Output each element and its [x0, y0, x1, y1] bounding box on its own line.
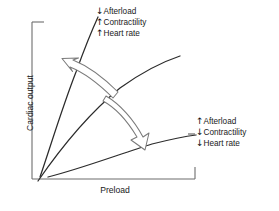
arrow-down-icon: ↓ [96, 6, 101, 16]
lower-annotation-row: ↓ Contractility [196, 127, 246, 138]
upper-annotation-row: ↑ Contractility [96, 17, 146, 28]
shift-up-arrow-body [62, 58, 118, 98]
upper-annotation-label: Contractility [104, 18, 147, 28]
upper-annotation-label: Heart rate [104, 29, 140, 39]
lower-annotation-row: ↑ Afterload [196, 116, 246, 127]
arrow-down-icon: ↓ [196, 138, 201, 148]
curve-depressed-cardiac-function [48, 135, 196, 177]
shift-up-arrow [62, 58, 118, 98]
arrow-up-icon: ↑ [196, 116, 201, 126]
y-axis-title: Cardiac output [25, 53, 35, 153]
upper-annotation-row: ↑ Heart rate [96, 28, 146, 39]
upper-annotation-label: Afterload [104, 7, 137, 17]
lower-annotation-label: Afterload [204, 117, 237, 127]
lower-annotation-label: Heart rate [204, 139, 240, 149]
arrow-down-icon: ↓ [196, 127, 201, 137]
shift-down-arrow-body [103, 96, 149, 150]
arrow-up-icon: ↑ [96, 17, 101, 27]
cardiac-function-curve-figure: ↓ Afterload ↑ Contractility ↑ Heart rate… [0, 0, 279, 211]
lower-annotation-row: ↓ Heart rate [196, 138, 246, 149]
upper-annotation-block: ↓ Afterload ↑ Contractility ↑ Heart rate [96, 6, 146, 40]
x-axis-title: Preload [75, 185, 155, 195]
arrow-up-icon: ↑ [96, 28, 101, 38]
shift-down-arrow [103, 96, 149, 150]
upper-annotation-row: ↓ Afterload [96, 6, 146, 17]
lower-annotation-label: Contractility [204, 128, 247, 138]
lower-annotation-block: ↑ Afterload ↓ Contractility ↓ Heart rate [196, 116, 246, 150]
curve-enhanced-cardiac-function [40, 17, 98, 177]
